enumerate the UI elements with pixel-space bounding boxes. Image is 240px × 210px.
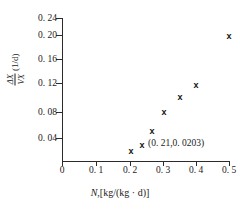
x-axis-title-unit: ,[kg/(kg · d)] — [97, 187, 149, 198]
y-axis-title-denominator: VX — [16, 73, 25, 85]
x-axis-tick-label: 0. 3 — [156, 166, 170, 176]
data-point: x — [148, 127, 157, 136]
data-point: x — [160, 108, 169, 117]
x-axis-line — [62, 161, 230, 162]
data-point: x — [192, 81, 201, 90]
data-point-annotation: (0. 21,0. 0203) — [148, 139, 204, 149]
data-point: x — [127, 147, 136, 156]
y-axis-title-unit: (1/d) — [11, 54, 20, 72]
y-axis-title: ΔX VX (1/d) — [6, 22, 25, 118]
y-axis-tick-label: 0. 04 — [38, 134, 57, 144]
y-axis-title-numerator: ΔX — [6, 73, 15, 85]
x-axis-tick-label: 0. 1 — [89, 166, 103, 176]
y-axis-tick-label: 0. 08 — [38, 108, 57, 118]
data-point: x — [138, 141, 147, 150]
data-point: x — [176, 93, 185, 102]
y-axis-line — [62, 18, 63, 161]
y-axis-tick-label: 0. 12 — [38, 79, 57, 89]
chart-container: 0. 24 0. 20 0. 16 0. 12 0. 08 0. 04 0 0.… — [0, 0, 240, 210]
y-axis-tick-label: 0. 16 — [38, 55, 57, 65]
y-axis-tick-label: 0. 24 — [38, 14, 57, 24]
x-axis-title: N,[kg/(kg · d)] — [0, 188, 240, 198]
x-axis-tick-label: 0. 5 — [222, 166, 236, 176]
x-axis-tick-label: 0. 2 — [123, 166, 137, 176]
y-axis-tick-label: 0. 20 — [38, 31, 57, 41]
x-axis-tick-label: 0 — [60, 166, 65, 176]
x-axis-tick-label: 0. 4 — [189, 166, 203, 176]
data-point: x — [225, 32, 234, 41]
y-axis-title-fraction: ΔX VX — [6, 73, 25, 85]
